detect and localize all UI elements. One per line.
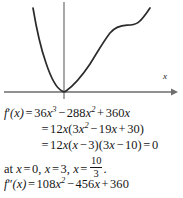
equals-sign: = bbox=[22, 162, 32, 176]
argument-x: (x) bbox=[10, 106, 24, 120]
equals-sign: = bbox=[40, 122, 50, 136]
exponent-3: 3 bbox=[52, 104, 56, 114]
equals-sign: = bbox=[50, 162, 60, 176]
fraction-numerator: 10 bbox=[90, 156, 103, 167]
equals-sign: = bbox=[26, 177, 36, 191]
x-axis-arrowhead bbox=[171, 88, 178, 95]
function-graph bbox=[0, 0, 183, 100]
equals-sign: = bbox=[24, 106, 34, 120]
equation-line-3: =12x(x−3)(3x−10)=0 bbox=[40, 138, 158, 152]
equation-line-5-second-derivative: f″(x)=108x2−456x+360 bbox=[4, 177, 129, 191]
variable-x: x bbox=[63, 122, 69, 136]
equals-sign: = bbox=[79, 162, 89, 176]
variable-x: x bbox=[73, 162, 79, 176]
minus-sign: − bbox=[89, 122, 99, 136]
minus-sign: − bbox=[57, 106, 67, 120]
minus-sign: − bbox=[78, 138, 88, 152]
plus-sign: + bbox=[117, 122, 127, 136]
plus-sign: + bbox=[100, 177, 110, 191]
period: . bbox=[103, 162, 106, 176]
equals-sign: = bbox=[142, 138, 152, 152]
plus-sign: + bbox=[96, 106, 106, 120]
minus-sign: − bbox=[65, 177, 75, 191]
equation-line-1: f′(x)=36x3−288x2+360x bbox=[4, 106, 130, 120]
function-curve bbox=[33, 8, 150, 92]
exponent-2: 2 bbox=[91, 104, 95, 114]
equation-block: f′(x)=36x3−288x2+360x =12x(3x2−19x+30) =… bbox=[0, 100, 183, 198]
at-keyword: at bbox=[4, 162, 13, 176]
variable-x: x bbox=[125, 106, 131, 120]
x-axis-label: x bbox=[163, 72, 167, 81]
minus-sign: − bbox=[115, 138, 125, 152]
equals-sign: = bbox=[40, 138, 50, 152]
graph-panel: x bbox=[0, 0, 183, 100]
argument-x: (x) bbox=[12, 177, 26, 191]
variable-x: x bbox=[63, 138, 69, 152]
equation-line-2: =12x(3x2−19x+30) bbox=[40, 122, 144, 136]
math-figure: x f′(x)=36x3−288x2+360x =12x(3x2−19x+30)… bbox=[0, 0, 183, 198]
